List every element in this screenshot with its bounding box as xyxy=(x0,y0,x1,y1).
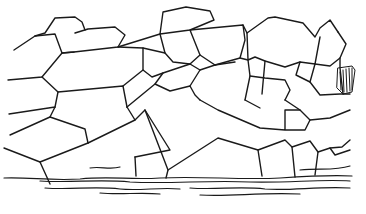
middle-stones xyxy=(8,52,350,114)
lower-stones xyxy=(4,100,350,184)
wall-illustration xyxy=(0,0,366,214)
top-stones xyxy=(14,7,346,77)
ground-lines xyxy=(4,166,352,195)
stone-wall-drawing: Line engraving of a polygonal (Cyclopean… xyxy=(0,0,366,214)
